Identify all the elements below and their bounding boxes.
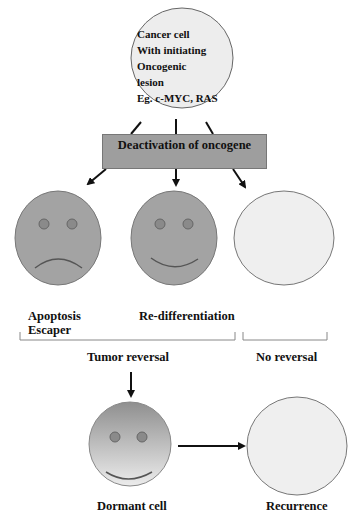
tumor-reversal-label: Tumor reversal	[87, 350, 169, 364]
sad-face-cell	[15, 191, 101, 285]
no-reversal-label: No reversal	[256, 350, 317, 364]
top-cell-line: Oncogenic	[137, 58, 218, 74]
deactivation-label: Deactivation of oncogene	[103, 138, 266, 153]
label-line: Escaper	[28, 323, 81, 337]
top-cell-line: Cancer cell	[137, 26, 218, 42]
happy-face-cell	[131, 191, 217, 285]
top-cell-line: With initiating	[137, 42, 218, 58]
recurrence-cell	[247, 397, 347, 495]
label-line: Apoptosis	[28, 309, 81, 323]
apoptosis-escaper-label: Apoptosis Escaper	[28, 309, 81, 337]
recurrence-label: Recurrence	[266, 499, 328, 513]
top-cell-line: lesion	[137, 74, 218, 90]
dormant-cell-label: Dormant cell	[97, 499, 167, 513]
dormant-cell	[89, 402, 171, 486]
no-reversal-cell	[234, 191, 334, 285]
top-cell-text: Cancer cell With initiating Oncogenic le…	[137, 26, 218, 106]
deactivation-box: Deactivation of oncogene	[102, 134, 267, 169]
connector-lines-top	[131, 119, 213, 134]
top-cell-line: Eg. c-MYC, RAS	[137, 90, 218, 106]
outcome-arrows	[88, 169, 245, 187]
re-differentiation-label: Re-differentiation	[139, 309, 235, 323]
